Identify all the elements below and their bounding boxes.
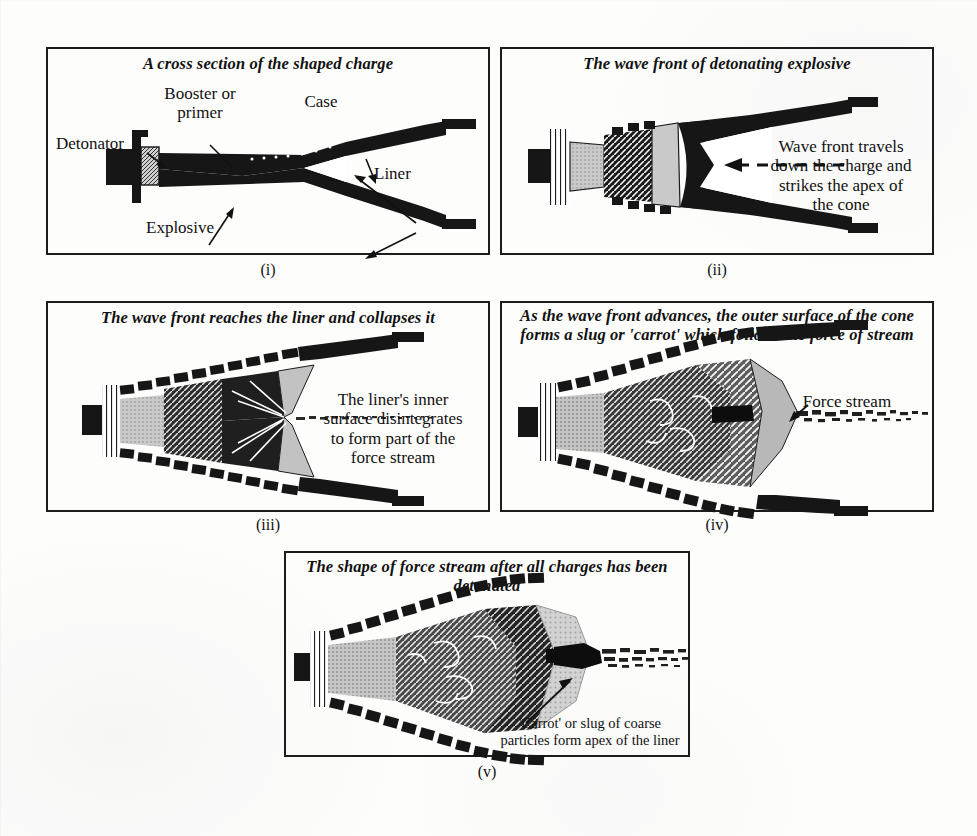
panel-i-label-booster: Booster or primer xyxy=(148,84,252,123)
panel-i-label-case: Case xyxy=(288,92,354,111)
panel-iv-roman: (iv) xyxy=(500,516,934,534)
panel-ii-note: Wave front travels down the charge and s… xyxy=(752,137,930,215)
panel-iv-label-force-stream: Force stream xyxy=(782,392,912,411)
panel-i-label-explosive: Explosive xyxy=(128,218,232,237)
panel-v-label-carrot: 'Carrot' or slug of coarse particles for… xyxy=(492,715,688,749)
panel-i-roman: (i) xyxy=(46,261,490,279)
panel-i-label-detonator: Detonator xyxy=(56,134,166,153)
panel-iii-note: The liner's inner surface disintegrates … xyxy=(300,390,486,468)
panel-i-label-liner: Liner xyxy=(374,164,446,183)
panel-iii-roman: (iii) xyxy=(46,516,490,534)
panel-v-roman: (v) xyxy=(284,763,690,781)
panel-ii-roman: (ii) xyxy=(500,261,934,279)
